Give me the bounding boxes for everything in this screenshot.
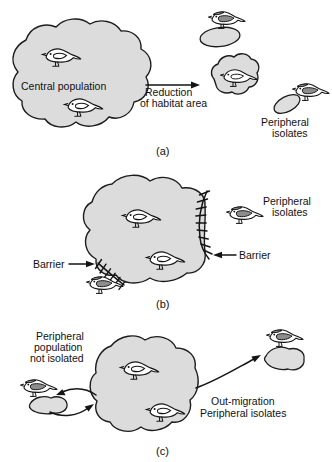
out-migration-peripheral-isolate-blob <box>265 347 305 370</box>
peripheral-population-bird <box>20 380 57 397</box>
panel-a: Central population Reduction of habitat … <box>0 0 332 160</box>
barrier-left-arrow <box>69 261 95 267</box>
peripheral-isolate-bird-b1 <box>226 207 263 224</box>
barrier-right-arrow <box>213 252 236 258</box>
panel-c: Peripheral population not isolated Out-m… <box>0 318 332 462</box>
panel-c-caption: (c) <box>156 445 169 457</box>
peripheral-population-not-isolated-blob <box>29 397 67 414</box>
out-migration-arrow <box>196 355 261 388</box>
out-migration-label-line1: Out-migration <box>211 395 275 407</box>
central-population-blob-c <box>90 336 198 431</box>
peripheral-isolate-bird-1 <box>208 12 245 29</box>
panel-b: Barrier Barrier Peripheral isol <box>0 160 332 318</box>
speciation-peripheral-isolates-figure: Central population Reduction of habitat … <box>0 0 332 462</box>
peripheral-isolates-label-b-line2: isolates <box>272 206 308 218</box>
out-migration-label-line2: Peripheral isolates <box>200 407 286 419</box>
panel-b-caption: (b) <box>156 298 169 310</box>
panel-a-caption: (a) <box>156 145 169 157</box>
out-migration-peripheral-bird <box>266 330 303 347</box>
peripheral-population-label-line3: not isolated <box>30 352 84 364</box>
peripheral-isolates-label-line2: isolates <box>272 127 308 139</box>
reduction-label-line2: of habitat area <box>140 97 207 109</box>
central-population-label: Central population <box>21 80 106 92</box>
barrier-right-label: Barrier <box>239 249 271 261</box>
barrier-left-label: Barrier <box>33 258 65 270</box>
